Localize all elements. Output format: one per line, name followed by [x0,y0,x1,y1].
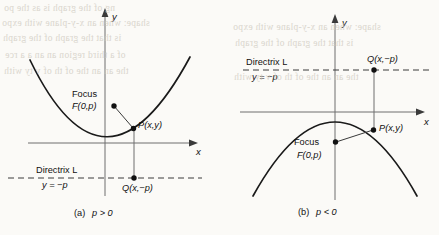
panel-b-caption-prefix: (b) [298,207,309,217]
panel-a-caption-expression: p > 0 [91,208,114,218]
panel-a-x-axis [28,140,198,147]
panel-a-caption-prefix: (a) [74,208,85,218]
figure-container: ng of the graph is as the po shape: when… [0,0,439,235]
panel-b-directrix-label: Directrix L [246,57,287,67]
panel-b-group: y x Focus F(0,p) P(x,y) Q(x,−p) Directri… [240,14,432,217]
panel-b-y-axis [332,14,339,200]
panel-a-directrix-label: Directrix L [36,165,77,175]
panel-a-y-axis [102,8,109,196]
panel-b-point-p [371,127,376,132]
panel-a-segment-focus-to-p [114,106,133,128]
panel-a-focus-point [111,103,116,108]
panel-b-segment-focus-to-p [336,130,373,142]
panel-a-focus-label: Focus [72,89,97,99]
panel-b-point-q-label: Q(x,−p) [367,54,398,64]
panel-a-group: y x Focus F(0,p) P(x,y) Q(x,−p) Directri… [8,8,202,218]
panel-b-focus-label: Focus [294,137,319,147]
panel-a-point-q-label: Q(x,−p) [122,183,153,193]
panel-a-parabola-curve [30,57,190,137]
panel-b-focus-point [333,139,338,144]
panel-b-focus-coords-label: F(0,p) [297,150,322,160]
panel-b-directrix-equation-label: y = −p [251,72,278,82]
panel-a-x-axis-label: x [195,146,202,157]
panel-a-point-q [131,175,136,180]
panel-a-focus-coords-label: F(0,p) [72,101,97,111]
panel-b-caption-expression: p < 0 [315,207,338,217]
panel-b-x-axis [240,109,425,116]
panel-a-point-p [131,126,136,131]
panel-a-point-p-label: P(x,y) [138,120,162,130]
panel-a-y-axis-label: y [111,11,118,22]
panel-b-point-q [371,67,376,72]
parabola-figure-svg: y x Focus F(0,p) P(x,y) Q(x,−p) Directri… [0,0,439,235]
panel-b-y-axis-label: y [341,17,348,28]
panel-a-directrix-equation-label: y = −p [41,180,68,190]
panel-b-point-p-label: P(x,y) [379,123,403,133]
panel-b-x-axis-label: x [423,116,430,127]
